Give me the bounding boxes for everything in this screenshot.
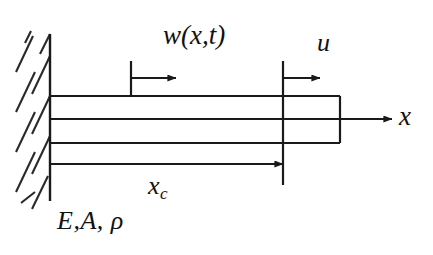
rod-body [50,96,340,143]
u-indicator [283,61,320,185]
label-x-axis: x [399,103,411,130]
label-crack-position-base: x [148,171,160,200]
label-material-properties: E,A, ρ [57,208,124,234]
label-crack-position: xc [148,173,168,202]
label-axial-displacement: u [317,30,330,56]
label-transverse-displacement: w(x,t) [163,22,225,49]
label-crack-position-subscript: c [160,184,168,203]
w-indicator [131,61,176,96]
rod-diagram-figure: w(x,t) u x xc E,A, ρ [0,0,433,255]
wall-hatching [16,31,50,209]
